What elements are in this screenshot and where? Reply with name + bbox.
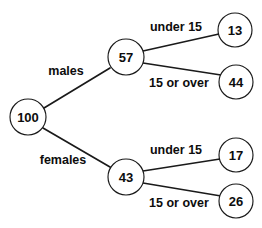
node-root-label: 100 <box>17 110 39 125</box>
tree-diagram: 100 57 43 13 44 17 26 males females unde… <box>0 0 262 228</box>
edge-males-to-under15 <box>143 34 219 51</box>
node-females-15-or-over-label: 26 <box>229 194 243 209</box>
branch-label-females-under15: under 15 <box>150 143 202 157</box>
node-females-under15-label: 17 <box>229 148 243 163</box>
edge-females-to-under15 <box>143 159 220 171</box>
node-males-15-or-over-label: 44 <box>229 75 244 90</box>
branch-label-males-15-or-over: 15 or over <box>149 76 209 90</box>
branch-label-females: females <box>40 153 87 167</box>
edge-males-to-15-or-over <box>143 63 221 75</box>
branch-label-females-15-or-over: 15 or over <box>149 196 209 210</box>
tree-diagram-canvas: 100 57 43 13 44 17 26 males females unde… <box>0 0 262 228</box>
node-males-under15-label: 13 <box>228 23 242 38</box>
node-females-label: 43 <box>119 170 133 185</box>
branch-label-males-under15: under 15 <box>150 20 202 34</box>
edge-females-to-15-or-over <box>143 183 221 196</box>
node-males-label: 57 <box>119 50 133 65</box>
branch-label-males: males <box>48 64 83 78</box>
